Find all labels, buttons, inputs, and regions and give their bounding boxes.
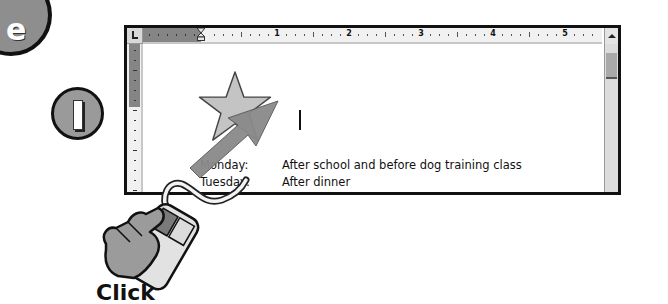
ruler-top-margin bbox=[129, 44, 140, 107]
ruler-tick bbox=[322, 34, 323, 36]
text-cursor bbox=[299, 110, 301, 130]
ruler-tick bbox=[529, 32, 530, 37]
ruler-tick bbox=[133, 150, 137, 151]
ruler-tick bbox=[134, 50, 136, 51]
line-text: After dinner bbox=[282, 175, 350, 189]
horizontal-ruler[interactable]: 12345 bbox=[143, 28, 602, 44]
ruler-tick bbox=[331, 34, 332, 36]
ruler-tick bbox=[134, 120, 136, 121]
ruler-tick bbox=[376, 34, 377, 36]
tab-selector-button[interactable] bbox=[127, 28, 143, 44]
indent-markers-icon[interactable] bbox=[197, 28, 205, 41]
ruler-tick bbox=[538, 34, 539, 36]
ruler-tick bbox=[313, 32, 314, 37]
ruler-tick bbox=[149, 34, 150, 36]
ruler-tick bbox=[520, 34, 521, 36]
line-day: Tuesday: bbox=[200, 175, 250, 189]
vertical-ruler[interactable] bbox=[127, 44, 143, 192]
ruler-tick bbox=[556, 34, 557, 36]
ruler-tick bbox=[232, 34, 233, 36]
ruler-tick bbox=[592, 34, 593, 36]
ruler-tick bbox=[241, 32, 242, 37]
ruler-tick bbox=[250, 34, 251, 36]
ruler-tick bbox=[394, 34, 395, 36]
ruler-tick bbox=[385, 32, 386, 37]
ruler-tick bbox=[134, 100, 136, 101]
ruler-tick bbox=[340, 34, 341, 36]
ruler-left-margin bbox=[143, 28, 201, 42]
vertical-scrollbar[interactable] bbox=[604, 44, 618, 192]
document-line: Tuesday: After dinner bbox=[200, 175, 600, 191]
ruler-tick bbox=[134, 60, 136, 61]
ruler-tick bbox=[167, 34, 168, 36]
ruler-tick bbox=[475, 34, 476, 36]
ruler-tick bbox=[133, 70, 137, 71]
ruler-tick bbox=[223, 34, 224, 36]
ruler-tick bbox=[484, 34, 485, 36]
star-shape[interactable] bbox=[198, 70, 272, 142]
ruler-tick bbox=[457, 32, 458, 37]
ruler-number: 3 bbox=[418, 29, 424, 38]
ruler-tick bbox=[134, 170, 136, 171]
ruler-tick bbox=[547, 34, 548, 36]
ruler-tick bbox=[133, 110, 137, 111]
step-number-badge bbox=[51, 87, 104, 140]
ruler-tick bbox=[259, 34, 260, 36]
ruler-tick bbox=[194, 34, 195, 36]
ruler-tick bbox=[134, 160, 136, 161]
ruler-tick bbox=[304, 34, 305, 36]
document-window: 12345 Monday: After school and before do… bbox=[124, 25, 621, 195]
section-badge: e bbox=[0, 0, 52, 56]
scrollbar-thumb[interactable] bbox=[606, 53, 617, 79]
ruler-tick bbox=[134, 90, 136, 91]
click-caption: Click bbox=[96, 282, 155, 304]
ruler-number: 5 bbox=[562, 29, 568, 38]
ruler-tick bbox=[358, 34, 359, 36]
ruler-tick bbox=[134, 130, 136, 131]
ruler-tick bbox=[185, 34, 186, 36]
ruler-tick bbox=[286, 34, 287, 36]
ruler-number: 4 bbox=[490, 29, 496, 38]
ruler-tick bbox=[268, 34, 269, 36]
ruler-tick bbox=[466, 34, 467, 36]
document-body[interactable]: Monday: After school and before dog trai… bbox=[143, 44, 604, 192]
ruler-tick bbox=[133, 190, 137, 191]
line-text: After school and before dog training cla… bbox=[282, 158, 522, 172]
ruler-tick bbox=[430, 34, 431, 36]
ruler-number: 2 bbox=[346, 29, 352, 38]
ruler-tick bbox=[448, 34, 449, 36]
ruler-tick bbox=[134, 80, 136, 81]
scroll-up-arrow-icon[interactable] bbox=[604, 28, 618, 44]
ruler-tick bbox=[158, 34, 159, 36]
ruler-tick bbox=[502, 34, 503, 36]
ruler-tick bbox=[403, 34, 404, 36]
step-number-glyph bbox=[73, 100, 83, 130]
section-letter: e bbox=[6, 12, 26, 47]
ruler-tick bbox=[574, 34, 575, 36]
ruler-tick bbox=[134, 180, 136, 181]
ruler-tick bbox=[176, 34, 177, 36]
line-day: Monday: bbox=[200, 158, 248, 172]
ruler-number: 1 bbox=[274, 29, 280, 38]
ruler-tick bbox=[367, 34, 368, 36]
ruler-tick bbox=[295, 34, 296, 36]
ruler-tick bbox=[214, 34, 215, 36]
ruler-tick bbox=[412, 34, 413, 36]
ruler-tick bbox=[134, 140, 136, 141]
ruler-tick bbox=[583, 34, 584, 36]
ruler-tick bbox=[439, 34, 440, 36]
ruler-tick bbox=[511, 34, 512, 36]
document-line: Monday: After school and before dog trai… bbox=[200, 158, 600, 174]
